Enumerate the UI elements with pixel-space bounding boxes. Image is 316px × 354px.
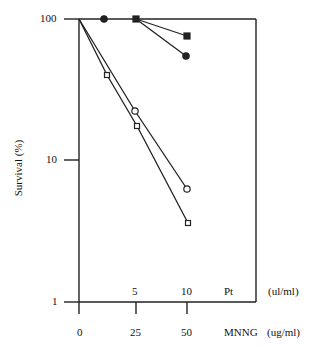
marker-filled-square [133,16,139,22]
mnng-axis-unit: (ug/ml) [267,326,300,338]
chart-canvas [0,0,316,354]
mnng-tick-50: 50 [181,326,192,338]
line-filled-circle [136,19,186,56]
line-filled-square [136,19,187,36]
pt-tick-10: 10 [181,285,192,297]
pt-tick-5: 5 [132,285,138,297]
mnng-axis-name: MNNG [224,326,258,338]
series-markers [101,16,191,226]
marker-open-circle [132,108,138,114]
line-open-square [79,19,188,223]
pt-axis-unit: (ul/ml) [268,285,299,297]
mnng-tick-0: 0 [77,326,83,338]
y-tick-10: 10 [46,153,57,165]
pt-axis-name: Pt [224,285,233,297]
marker-open-square [105,73,110,78]
marker-open-square [186,221,191,226]
mnng-tick-25: 25 [130,326,141,338]
y-tick-1: 1 [52,295,58,307]
marker-filled-circle [183,53,189,59]
y-tick-100: 100 [40,12,57,24]
marker-filled-circle [101,16,107,22]
marker-filled-square [184,33,190,39]
series-lines [79,19,188,223]
plot-frame [64,19,256,314]
y-axis-label: Survival (%) [12,128,24,208]
marker-open-square [135,124,140,129]
marker-open-circle [184,186,190,192]
